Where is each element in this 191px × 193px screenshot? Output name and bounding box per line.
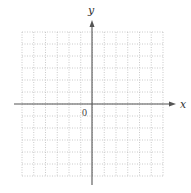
y-axis-label: y [87,4,95,17]
coordinate-plane: y x 0 [0,0,191,193]
x-axis-arrow-icon [169,102,176,107]
origin-label: 0 [82,107,87,118]
y-axis-arrow-icon [90,20,95,27]
x-axis-label: x [180,98,187,111]
axes [14,20,176,185]
